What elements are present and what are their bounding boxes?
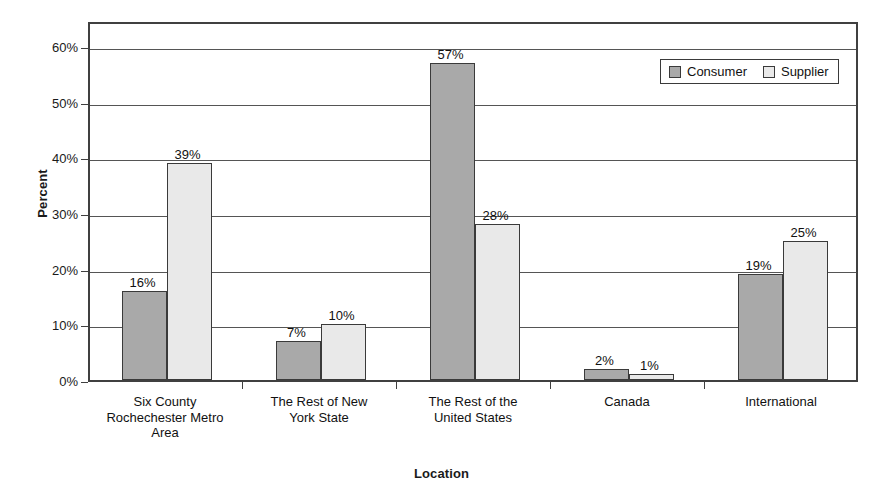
bar-supplier — [629, 374, 674, 380]
x-category-label: The Rest of theUnited States — [388, 394, 558, 425]
x-tick-mark — [242, 382, 243, 389]
bar-chart: Percent Location 0%10%20%30%40%50%60%16%… — [0, 0, 883, 496]
bar-supplier — [167, 163, 212, 380]
x-category-label: Canada — [542, 394, 712, 410]
y-tick-mark — [81, 104, 88, 105]
y-tick-label: 60% — [0, 41, 78, 54]
legend-label-supplier: Supplier — [781, 65, 829, 78]
y-tick-mark — [81, 271, 88, 272]
legend-swatch-consumer-icon — [669, 66, 681, 78]
x-category-label: International — [696, 394, 866, 410]
bar-value-label: 39% — [153, 148, 222, 161]
bar-supplier — [475, 224, 520, 380]
bar-value-label: 25% — [769, 226, 838, 239]
y-tick-mark — [81, 382, 88, 383]
bar-value-label: 19% — [724, 259, 793, 272]
bar-consumer — [122, 291, 167, 380]
y-tick-mark — [81, 48, 88, 49]
x-category-label: The Rest of NewYork State — [234, 394, 404, 425]
x-tick-mark — [550, 382, 551, 389]
chart-legend: Consumer Supplier — [660, 59, 839, 84]
y-tick-label: 10% — [0, 319, 78, 332]
y-tick-mark — [81, 326, 88, 327]
bar-value-label: 1% — [615, 359, 684, 372]
bar-consumer — [738, 274, 783, 380]
x-axis-title: Location — [0, 466, 883, 481]
y-tick-mark — [81, 215, 88, 216]
bar-value-label: 7% — [262, 326, 331, 339]
legend-label-consumer: Consumer — [687, 65, 747, 78]
bar-value-label: 28% — [461, 209, 530, 222]
legend-item-supplier: Supplier — [763, 65, 829, 78]
legend-item-consumer: Consumer — [669, 65, 747, 78]
bar-consumer — [276, 341, 321, 380]
legend-swatch-supplier-icon — [763, 66, 775, 78]
x-tick-mark — [704, 382, 705, 389]
y-tick-mark — [81, 159, 88, 160]
bar-value-label: 10% — [307, 309, 376, 322]
bar-value-label: 57% — [416, 48, 485, 61]
y-tick-label: 50% — [0, 97, 78, 110]
y-tick-label: 40% — [0, 152, 78, 165]
y-tick-label: 30% — [0, 208, 78, 221]
x-tick-mark — [396, 382, 397, 389]
bar-value-label: 16% — [108, 276, 177, 289]
y-tick-label: 20% — [0, 264, 78, 277]
y-tick-label: 0% — [0, 375, 78, 388]
x-category-label: Six CountyRochechester MetroArea — [80, 394, 250, 441]
